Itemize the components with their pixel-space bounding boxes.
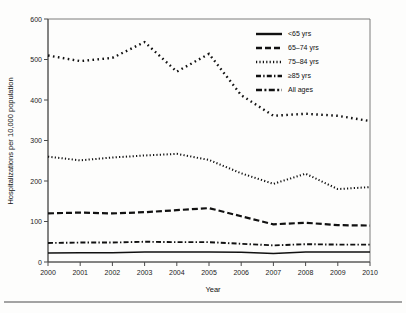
y-axis-title: Hospitalizations per 10,000 population [6, 77, 15, 204]
series-line-all-ages [48, 242, 370, 246]
y-tick-label: 300 [30, 137, 42, 144]
line-chart: 0100200300400500600 20002001200220032004… [0, 0, 406, 313]
y-tick-label: 600 [30, 16, 42, 23]
x-tick-label: 2006 [233, 269, 249, 276]
legend-label-4: All ages [288, 86, 313, 94]
series-line--85-yrs [48, 42, 370, 121]
y-axis: 0100200300400500600 [30, 16, 48, 266]
x-tick-label: 2000 [40, 269, 56, 276]
x-axis: 2000200120022003200420052006200720082009… [40, 262, 378, 276]
x-tick-label: 2002 [105, 269, 121, 276]
series-line--65-yrs [48, 252, 370, 254]
x-tick-label: 2004 [169, 269, 185, 276]
legend-label-3: ≥85 yrs [288, 72, 311, 80]
figure-panel: 0100200300400500600 20002001200220032004… [0, 0, 406, 313]
x-axis-title: Year [205, 285, 221, 294]
x-tick-label: 2003 [137, 269, 153, 276]
legend-label-1: 65–74 yrs [288, 44, 319, 52]
x-tick-label: 2009 [330, 269, 346, 276]
y-tick-label: 0 [38, 259, 42, 266]
legend-label-2: 75–84 yrs [288, 58, 319, 66]
chart-legend: <65 yrs65–74 yrs75–84 yrs≥85 yrsAll ages [256, 30, 319, 94]
x-tick-label: 2005 [201, 269, 217, 276]
y-tick-label: 100 [30, 218, 42, 225]
y-tick-label: 500 [30, 56, 42, 63]
x-tick-label: 2007 [266, 269, 282, 276]
x-tick-label: 2001 [72, 269, 88, 276]
series-line-75-84-yrs [48, 154, 370, 189]
x-tick-label: 2010 [362, 269, 378, 276]
y-tick-label: 400 [30, 97, 42, 104]
series-line-65-74-yrs [48, 208, 370, 225]
plot-frame [48, 19, 370, 262]
y-tick-label: 200 [30, 178, 42, 185]
legend-label-0: <65 yrs [288, 30, 312, 38]
series-lines [48, 42, 370, 253]
x-tick-label: 2008 [298, 269, 314, 276]
